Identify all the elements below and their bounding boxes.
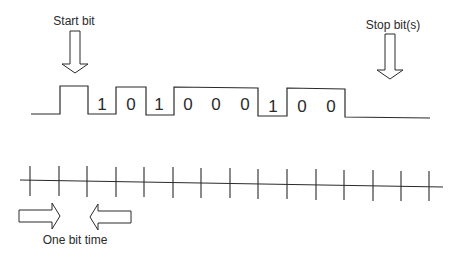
bit-value: 0 [126, 95, 135, 114]
bit-values: 1 0 1 0 0 0 1 0 0 [97, 95, 335, 116]
serial-frame-diagram: Start bit Stop bit(s) 1 0 1 0 0 0 1 0 0 [0, 0, 462, 256]
bit-value: 0 [326, 97, 335, 116]
start-bit-label: Start bit [53, 14, 95, 28]
stop-bits-callout: Stop bit(s) [366, 18, 421, 79]
serial-waveform [31, 86, 430, 118]
stop-bits-down-arrow-icon [377, 34, 403, 79]
bit-value: 0 [211, 95, 220, 114]
timeline-axis [20, 180, 443, 187]
bit-value: 0 [297, 97, 306, 116]
bit-value: 0 [183, 95, 192, 114]
one-bit-time-callout: One bit time [19, 203, 131, 247]
start-bit-callout: Start bit [53, 14, 95, 73]
stop-bits-label: Stop bit(s) [366, 18, 421, 32]
bit-value: 1 [154, 95, 163, 114]
one-bit-time-label: One bit time [43, 233, 108, 247]
bit-value: 0 [240, 95, 249, 114]
left-arrow-icon [90, 204, 131, 230]
bit-value: 1 [97, 95, 106, 114]
bit-value: 1 [268, 97, 277, 116]
start-bit-down-arrow-icon [62, 31, 88, 73]
bit-timeline [20, 166, 443, 201]
right-arrow-icon [19, 203, 60, 229]
